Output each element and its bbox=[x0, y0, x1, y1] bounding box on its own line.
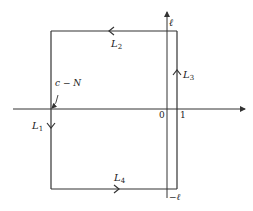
label-neg-ell: −ℓ bbox=[169, 192, 181, 202]
label-c-minus-N: c − N bbox=[55, 78, 82, 88]
contour-diagram: ℓ −ℓ 0 1 c − N L2 L3 L1 L4 bbox=[0, 0, 253, 211]
label-zero: 0 bbox=[159, 110, 165, 120]
label-L2: L2 bbox=[110, 38, 122, 51]
label-L1: L1 bbox=[31, 120, 43, 133]
label-one: 1 bbox=[180, 110, 186, 120]
c-minus-N-pointer bbox=[52, 95, 58, 108]
label-ell: ℓ bbox=[169, 17, 173, 28]
label-L3: L3 bbox=[182, 69, 194, 82]
label-L4: L4 bbox=[113, 172, 126, 185]
